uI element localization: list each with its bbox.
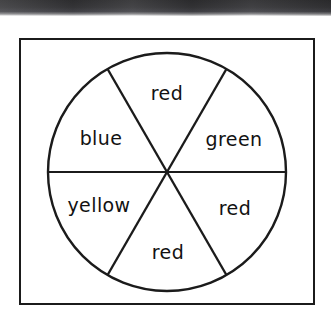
sector-label-lower-right: red <box>219 197 251 219</box>
sector-label-lower-left: yellow <box>67 194 130 216</box>
sector-label-upper-left: blue <box>80 127 123 149</box>
sector-label-upper-right: green <box>206 128 263 150</box>
spinner-wheel-diagram: red green red red yellow blue <box>0 0 331 322</box>
sector-label-top: red <box>151 82 183 104</box>
sector-label-bottom: red <box>152 241 184 263</box>
